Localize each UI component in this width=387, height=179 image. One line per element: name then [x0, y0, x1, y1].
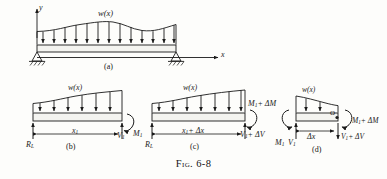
beam-b [33, 113, 122, 121]
left-moment-label-d: M1 [275, 139, 284, 148]
axis-label-y: y [39, 4, 43, 12]
beam-c [152, 113, 245, 121]
load-arrows-a [43, 22, 174, 43]
load-label-a: w(x) [98, 9, 113, 18]
reaction-label-c: RL [145, 141, 153, 150]
figure-caption-prefix: Fig. [176, 158, 193, 169]
element-width-label-d: Δx [307, 133, 315, 141]
support-left-a [29, 52, 45, 66]
load-label-d: w(x) [302, 86, 315, 94]
panel-label-b: (b) [66, 142, 75, 151]
origin-dot-d [335, 116, 338, 119]
load-label-c: w(x) [183, 84, 197, 92]
axis-label-x: x [221, 51, 225, 59]
load-label-b: w(x) [68, 84, 82, 92]
moment-label-b: M1 [133, 130, 142, 139]
moment-arrow-right-d [342, 110, 352, 127]
panel-a [29, 9, 218, 66]
origin-label-d: O [330, 110, 335, 117]
panel-label-a: (a) [104, 62, 113, 71]
load-curve-b [33, 91, 122, 104]
figure-caption: Fig. 6-8 [0, 158, 387, 169]
load-curve-c [152, 90, 245, 104]
beam-a [37, 45, 176, 52]
load-curve-a [37, 22, 176, 32]
distance-label-b: x1 [72, 127, 78, 136]
distance-label-c: x1+ Δx [182, 127, 204, 136]
panel-label-d: (d) [312, 145, 321, 154]
shear-label-c: V1+ ΔV [240, 131, 265, 140]
moment-label-c: M1+ ΔM [248, 100, 276, 109]
panel-label-c: (c) [190, 142, 199, 151]
left-shear-label-d: V1 [288, 139, 296, 148]
right-shear-label-d: V1+ ΔV [341, 133, 364, 141]
right-moment-label-d: M1+ ΔM [352, 117, 378, 125]
reaction-label-b: RL [26, 141, 34, 150]
load-curve-d [296, 96, 338, 106]
load-arrows-d [306, 98, 320, 111]
moment-arrow-c [247, 110, 257, 127]
figure-caption-number: 6-8 [196, 158, 211, 169]
shear-label-b: V1 [117, 132, 125, 141]
support-right-a [168, 52, 184, 66]
moment-arrow-left-d [282, 110, 292, 127]
